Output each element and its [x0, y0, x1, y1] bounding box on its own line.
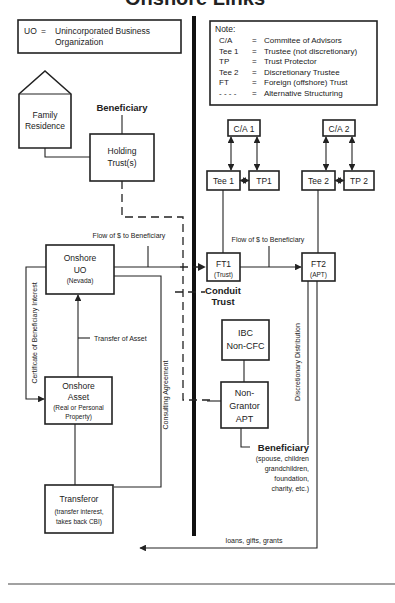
svg-text:TP1: TP1: [256, 176, 272, 186]
svg-text:Family: Family: [32, 110, 58, 120]
tee2-node: Tee 2: [302, 171, 335, 190]
onshore-offshore-divider: [192, 16, 196, 536]
svg-text:UO: UO: [74, 265, 87, 275]
discretionary-distribution-label: Discretionary Distribution: [294, 323, 302, 401]
tee1-node: Tee 1: [207, 171, 240, 190]
svg-text:Beneficiary: Beneficiary: [258, 442, 310, 453]
ft1-node: FT1 (Trust): [207, 253, 240, 281]
svg-text:Non-CFC: Non-CFC: [226, 341, 265, 351]
svg-text:foundation,: foundation,: [274, 475, 309, 482]
ft2-node: FT2 (APT): [302, 253, 335, 281]
legend-desc: Foreign (offshore) Trust: [264, 78, 348, 87]
svg-text:Asset: Asset: [68, 392, 90, 402]
diagram-title: Onshore Links: [125, 0, 265, 9]
svg-text:C/A 2: C/A 2: [329, 124, 350, 134]
legend-desc: Discretionary Trustee: [264, 68, 340, 77]
svg-text:Non-: Non-: [235, 388, 255, 398]
svg-text:Residence: Residence: [25, 121, 65, 131]
certificate-label: Certificate of Beneficiary Interest: [31, 282, 39, 383]
legend-row: Tee 2=Discretionary Trustee: [219, 68, 340, 77]
legend-abbr: FT: [219, 78, 229, 87]
svg-text:FT2: FT2: [311, 259, 326, 269]
consulting-agreement-label: Consulting Agreement: [162, 361, 170, 430]
svg-text:Holding: Holding: [108, 146, 137, 156]
svg-text:IBC: IBC: [238, 328, 254, 338]
svg-text:(Real or Personal: (Real or Personal: [53, 404, 104, 412]
svg-text:C/A 1: C/A 1: [234, 124, 255, 134]
svg-text:(APT): (APT): [310, 271, 327, 279]
legend-note: Note: C/A=Commitee of AdvisorsTee 1=Trus…: [210, 21, 377, 105]
svg-text:Trust(s): Trust(s): [108, 158, 137, 168]
svg-text:charity, etc.): charity, etc.): [271, 485, 309, 493]
legend-abbr: Tee 1: [219, 47, 239, 56]
svg-text:Tee 1: Tee 1: [213, 176, 234, 186]
tp2-node: TP 2: [344, 171, 374, 190]
loans-label: loans, gifts, grants: [226, 537, 283, 545]
legend-heading: Note:: [215, 24, 235, 34]
svg-text:(Trust): (Trust): [214, 271, 233, 279]
legend-abbr: C/A: [219, 36, 233, 45]
legend-eq: =: [252, 89, 257, 98]
legend-desc: Trust Protector: [264, 57, 317, 66]
conduit-trust-label: Conduit: [205, 285, 242, 296]
svg-text:grandchildren,: grandchildren,: [265, 465, 309, 473]
svg-text:Property): Property): [65, 413, 92, 421]
legend-desc: Alternative Structuring: [264, 89, 343, 98]
transferor-node: Transferor (transfer interest, takes bac…: [45, 485, 113, 533]
transfer-asset-label: Transfer of Asset: [94, 335, 147, 342]
holding-trust-node: Holding Trust(s): [90, 134, 154, 181]
svg-text:Trust: Trust: [211, 296, 235, 307]
legend-abbr: Tee 2: [219, 68, 239, 77]
legend-abbr: TP: [219, 57, 229, 66]
ca1-node: C/A 1: [228, 120, 260, 136]
svg-text:(Nevada): (Nevada): [67, 277, 94, 285]
legend-eq: =: [41, 26, 46, 36]
onshore-links-diagram: Onshore Links UO = Unincorporated Busine…: [0, 0, 395, 603]
svg-text:Tee 2: Tee 2: [308, 176, 329, 186]
flow-label-left: Flow of $ to Beneficiary: [93, 232, 166, 240]
legend-abbr: - - - -: [219, 89, 237, 98]
legend-desc: Unincorporated Business: [55, 26, 150, 36]
legend-eq: =: [252, 57, 257, 66]
svg-text:takes back CBI): takes back CBI): [56, 518, 102, 526]
legend-abbr: UO: [24, 26, 37, 36]
legend-eq: =: [252, 36, 257, 45]
non-grantor-apt-node: Non- Grantor APT: [221, 382, 268, 428]
legend-eq: =: [252, 68, 257, 77]
svg-text:TP 2: TP 2: [350, 176, 368, 186]
legend-desc: Commitee of Advisors: [264, 36, 342, 45]
legend-eq: =: [252, 78, 257, 87]
flow-label-right: Flow of $ to Beneficiary: [232, 236, 305, 244]
svg-text:(spouse, children: (spouse, children: [256, 455, 309, 463]
onshore-asset-node: Onshore Asset (Real or Personal Property…: [45, 377, 112, 424]
legend-desc: Trustee (not discretionary): [264, 47, 357, 56]
svg-text:Grantor: Grantor: [229, 401, 260, 411]
beneficiary-bottom-node: Beneficiary (spouse, children grandchild…: [256, 442, 310, 493]
onshore-uo-node: Onshore UO (Nevada): [46, 245, 114, 294]
legend-uo: UO = Unincorporated Business Organizatio…: [18, 20, 181, 53]
ca2-node: C/A 2: [323, 120, 355, 136]
svg-text:FT1: FT1: [216, 259, 231, 269]
family-residence-node: Family Residence: [19, 71, 71, 148]
svg-text:Onshore: Onshore: [64, 253, 97, 263]
ibc-node: IBC Non-CFC: [222, 320, 269, 360]
svg-text:Transferor: Transferor: [60, 494, 99, 504]
tp1-node: TP1: [249, 171, 279, 190]
legend-eq: =: [252, 47, 257, 56]
legend-desc: Organization: [55, 37, 103, 47]
svg-text:Onshore: Onshore: [62, 381, 95, 391]
beneficiary-top-label: Beneficiary: [96, 102, 148, 113]
svg-text:APT: APT: [236, 414, 254, 424]
svg-text:(transfer interest,: (transfer interest,: [54, 508, 103, 516]
